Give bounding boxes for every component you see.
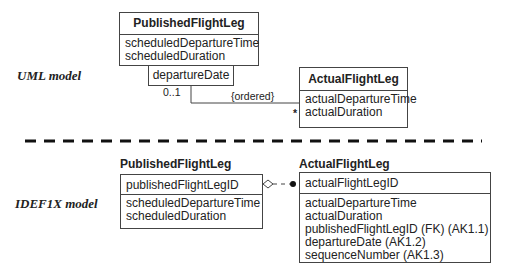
idef1x-actual-flight-leg-entity: actualFlightLegID actualDepartureTime ac…: [299, 172, 491, 263]
idef1x-model-label: IDEF1X model: [15, 196, 98, 212]
multiplicity-source: 0..1: [163, 86, 181, 98]
uml-qualifier-box: departureDate: [148, 65, 234, 86]
attribute: scheduledDuration: [125, 50, 253, 63]
multiplicity-target: *: [293, 107, 297, 119]
entity-attributes: actualDepartureTime actualDuration publi…: [300, 194, 490, 264]
idef1x-actual-entity-name: ActualFlightLeg: [299, 157, 390, 171]
uml-model-label: UML model: [17, 68, 81, 84]
idef1x-published-flight-leg-entity: publishedFlightLegID scheduledDepartureT…: [120, 174, 263, 229]
primary-key: actualFlightLegID: [300, 173, 490, 194]
class-name: ActualFlightLeg: [300, 68, 407, 91]
attribute: actualDuration: [305, 106, 402, 119]
ordered-constraint: {ordered}: [231, 90, 274, 102]
uml-actual-flight-leg-class: ActualFlightLeg actualDepartureTime actu…: [299, 67, 408, 128]
filled-dot-icon: [290, 181, 296, 187]
diamond-icon: [263, 180, 273, 188]
class-attributes: actualDepartureTime actualDuration: [300, 91, 407, 121]
idef1x-published-entity-name: PublishedFlightLeg: [120, 157, 231, 171]
attribute: sequenceNumber (AK1.3): [305, 249, 485, 262]
uml-published-flight-leg-class: PublishedFlightLeg scheduledDepartureTim…: [119, 12, 259, 66]
attribute: scheduledDuration: [126, 210, 257, 223]
class-name: PublishedFlightLeg: [120, 13, 258, 35]
entity-attributes: scheduledDepartureTime scheduledDuration: [121, 195, 262, 225]
primary-key: publishedFlightLegID: [121, 175, 262, 195]
class-attributes: scheduledDepartureTime scheduledDuration: [120, 35, 258, 65]
